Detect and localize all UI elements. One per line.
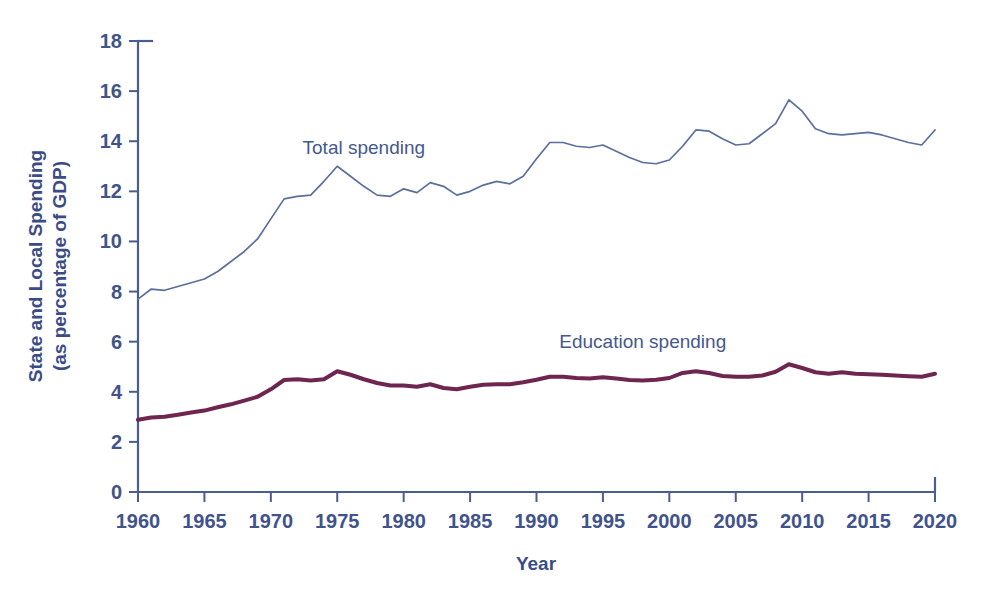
- x-tick-label: 1975: [315, 510, 360, 532]
- chart-figure: 024681012141618 196019651970197519801985…: [0, 0, 982, 596]
- y-axis-tick-labels: 024681012141618: [100, 30, 123, 503]
- axis-ticks: [129, 41, 935, 502]
- y-tick-label: 4: [111, 381, 123, 403]
- x-tick-label: 2005: [714, 510, 759, 532]
- chart-series: [138, 100, 935, 420]
- line-chart: 024681012141618 196019651970197519801985…: [0, 0, 982, 596]
- x-tick-label: 1960: [116, 510, 161, 532]
- chart-axes: [138, 41, 935, 492]
- y-tick-label: 0: [111, 481, 122, 503]
- x-tick-label: 1965: [182, 510, 227, 532]
- series-line-education-spending: [138, 364, 935, 420]
- series-label-education-spending: Education spending: [559, 331, 726, 352]
- y-axis-title-line1: State and Local Spending: [25, 150, 46, 382]
- y-tick-label: 6: [111, 331, 122, 353]
- series-label-total-spending: Total spending: [303, 137, 426, 158]
- y-tick-label: 8: [111, 281, 122, 303]
- series-line-total-spending: [138, 100, 935, 299]
- x-axis-tick-labels: 1960196519701975198019851990199520002005…: [116, 510, 958, 532]
- x-axis-title: Year: [516, 553, 557, 574]
- x-tick-label: 1995: [581, 510, 626, 532]
- y-tick-label: 14: [100, 130, 123, 152]
- x-tick-label: 2015: [846, 510, 891, 532]
- x-tick-label: 2000: [647, 510, 692, 532]
- y-axis-title: State and Local Spending (as percentage …: [25, 150, 70, 382]
- x-tick-label: 1980: [381, 510, 426, 532]
- x-tick-label: 1970: [249, 510, 294, 532]
- y-tick-label: 10: [100, 230, 122, 252]
- y-tick-label: 12: [100, 180, 122, 202]
- y-tick-label: 16: [100, 80, 122, 102]
- x-tick-label: 1985: [448, 510, 493, 532]
- x-tick-label: 2010: [780, 510, 825, 532]
- x-tick-label: 1990: [514, 510, 559, 532]
- y-axis-title-line2: (as percentage of GDP): [49, 161, 70, 371]
- series-annotations: Total spendingEducation spending: [303, 137, 727, 352]
- y-tick-label: 18: [100, 30, 122, 52]
- y-tick-label: 2: [111, 431, 122, 453]
- x-tick-label: 2020: [913, 510, 958, 532]
